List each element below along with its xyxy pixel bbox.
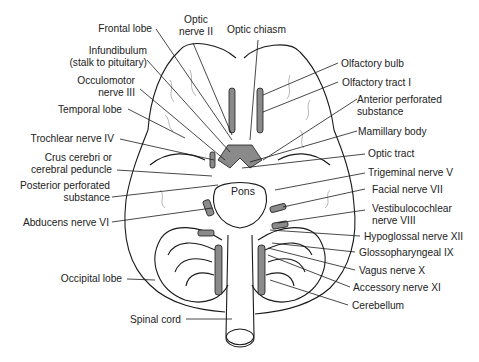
- olfactory-left: [229, 88, 235, 133]
- label-facial-nerve: Facial nerve VII: [372, 184, 443, 196]
- label-optic-nerve: Opticnerve II: [176, 14, 216, 37]
- label-anterior-perforated-substance: Anterior perforatedsubstance: [357, 94, 442, 117]
- label-accessory-nerve: Accessory nerve XI: [353, 282, 441, 294]
- label-occulomotor-nerve: Occulomotornerve III: [77, 75, 135, 98]
- label-vagus-nerve: Vagus nerve X: [359, 265, 425, 277]
- label-frontal-lobe: Frontal lobe: [98, 23, 152, 35]
- label-crus-cerebri: Crus cerebri orcerebral peduncle: [31, 152, 112, 175]
- label-posterior-perforated-substance: Posterior perforatedsubstance: [20, 180, 110, 203]
- label-occipital-lobe: Occipital lobe: [61, 273, 122, 285]
- olfactory-right: [257, 88, 263, 133]
- optic-chiasm-shape: [218, 145, 262, 168]
- label-trigeminal-nerve: Trigeminal nerve V: [368, 167, 453, 179]
- label-optic-chiasm: Optic chiasm: [227, 24, 286, 36]
- label-glossopharyngeal-nerve: Glossopharyngeal IX: [359, 247, 454, 259]
- label-spinal-cord: Spinal cord: [130, 314, 181, 326]
- spinal-cord-shape: [226, 235, 254, 345]
- label-abducens-nerve: Abducens nerve VI: [23, 217, 109, 229]
- label-vestibulocochlear-nerve: Vestibulocochlearnerve VIII: [372, 203, 452, 226]
- label-olfactory-tract: Olfactory tract I: [342, 77, 411, 89]
- label-optic-tract: Optic tract: [368, 148, 414, 160]
- label-cerebellum: Cerebellum: [352, 300, 404, 312]
- label-infundibulum: Infundibulum(stalk to pituitary): [69, 45, 147, 68]
- label-pons: Pons: [231, 185, 255, 197]
- label-trochlear-nerve: Trochlear nerve IV: [31, 133, 114, 145]
- label-olfactory-bulb: Olfactory bulb: [341, 58, 404, 70]
- label-hypoglossal-nerve: Hypoglossal nerve XII: [364, 231, 463, 243]
- label-temporal-lobe: Temporal lobe: [58, 104, 122, 116]
- label-mamillary-body: Mamillary body: [358, 126, 427, 138]
